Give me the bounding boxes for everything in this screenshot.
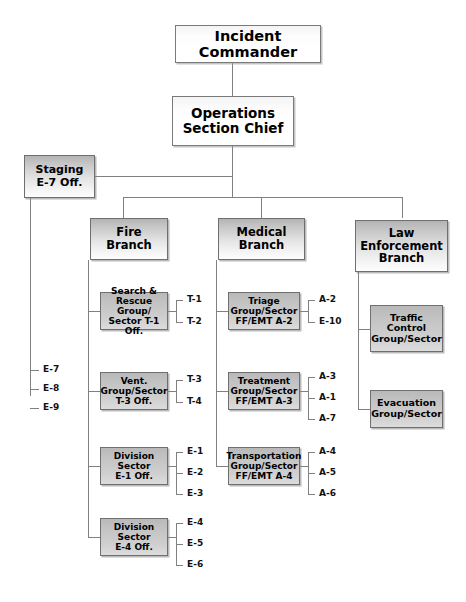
bracket-arm-t1 (176, 300, 183, 301)
node-transportation-line3: FF/EMT A-4 (225, 471, 304, 481)
node-vent-line3: T-3 Off. (99, 396, 170, 406)
bracket-spine-vent (176, 380, 177, 402)
connector-law-spine (358, 272, 359, 409)
resource-label-triage-0: A-2 (319, 294, 336, 304)
resource-label-treatment-0: A-3 (319, 371, 336, 381)
node-fire-branch-text: Fire Branch (104, 226, 153, 252)
stub-staging-e7 (30, 370, 39, 371)
node-operations-section-chief-line2: Section Chief (181, 121, 286, 136)
bracket-arm-a7 (308, 419, 315, 420)
node-division-sector-e4[interactable]: Division Sector E-4 Off. (100, 518, 168, 556)
bracket-arm-t4 (176, 402, 183, 403)
node-treatment-line3: FF/EMT A-3 (229, 396, 300, 406)
resource-label-division-e1-0: E-1 (187, 446, 203, 456)
node-law-enforcement-branch-line1: Law (358, 227, 445, 240)
connector-fire-spine (88, 260, 89, 538)
node-transportation-group[interactable]: Transportation Group/Sector FF/EMT A-4 (228, 447, 300, 485)
resource-label-transportation-2: A-6 (319, 488, 336, 498)
node-transportation-line2: Group/Sector (225, 461, 304, 471)
bracket-stem-treatment (300, 391, 308, 392)
node-search-rescue-text: Search & Rescue Group/ Sector T-1 Off. (101, 286, 167, 336)
node-law-enforcement-branch-text: Law Enforcement Branch (358, 227, 445, 266)
node-treatment-line2: Group/Sector (229, 386, 300, 396)
bracket-arm-a3 (308, 377, 315, 378)
bracket-stem-division-e1 (168, 466, 176, 467)
node-division-e4-line1: Division (112, 522, 157, 532)
node-division-e4-line2: Sector (112, 532, 157, 542)
stub-medical-triage (216, 311, 228, 312)
node-search-rescue-line1: Search & (101, 286, 167, 296)
node-traffic-control-group[interactable]: Traffic Control Group/Sector (370, 305, 443, 352)
connector-staging-to-trunk (95, 176, 233, 177)
bracket-arm-e6 (176, 565, 183, 566)
resource-label-division-e1-1: E-2 (187, 467, 203, 477)
node-medical-branch[interactable]: Medical Branch (218, 218, 305, 260)
bracket-arm-a2 (308, 300, 315, 301)
node-evacuation-group[interactable]: Evacuation Group/Sector (370, 390, 443, 428)
bracket-arm-e2 (176, 473, 183, 474)
node-treatment-text: Treatment Group/Sector FF/EMT A-3 (229, 376, 300, 406)
resource-label-division-e4-1: E-5 (187, 538, 203, 548)
node-fire-branch[interactable]: Fire Branch (90, 218, 168, 260)
node-operations-section-chief[interactable]: Operations Section Chief (172, 96, 294, 146)
bracket-arm-a5 (308, 473, 315, 474)
node-vent-group[interactable]: Vent. Group/Sector T-3 Off. (100, 372, 168, 410)
node-division-e1-text: Division Sector E-1 Off. (112, 451, 157, 481)
node-search-rescue-line2: Rescue Group/ (101, 296, 167, 316)
stub-medical-treatment (216, 391, 228, 392)
resource-label-search-rescue-0: T-1 (187, 294, 202, 304)
node-vent-line2: Group/Sector (99, 386, 170, 396)
resource-label-staging-1: E-8 (43, 383, 59, 393)
connector-drop-law (402, 197, 403, 218)
bracket-arm-t2 (176, 322, 183, 323)
connector-medical-spine (216, 260, 217, 467)
node-operations-section-chief-text: Operations Section Chief (181, 106, 286, 136)
node-division-sector-e1[interactable]: Division Sector E-1 Off. (100, 447, 168, 485)
bracket-spine-triage (308, 300, 309, 322)
node-evacuation-line2: Group/Sector (369, 409, 444, 420)
stub-fire-division-e1 (88, 466, 100, 467)
node-treatment-line1: Treatment (229, 376, 300, 386)
node-triage-line2: Group/Sector (229, 306, 300, 316)
bracket-stem-search-rescue (168, 311, 176, 312)
bracket-arm-e4 (176, 523, 183, 524)
node-staging-line1: Staging (34, 164, 86, 176)
resource-label-triage-1: E-10 (319, 316, 341, 326)
bracket-arm-a1 (308, 398, 315, 399)
resource-label-search-rescue-1: T-2 (187, 316, 202, 326)
resource-label-treatment-1: A-1 (319, 392, 336, 402)
node-staging-text: Staging E-7 Off. (34, 164, 86, 189)
stub-fire-search-rescue (88, 311, 100, 312)
connector-branch-bus (123, 197, 403, 198)
resource-label-transportation-0: A-4 (319, 446, 336, 456)
node-division-e1-line2: Sector (112, 461, 157, 471)
connector-staging-spine (30, 198, 31, 396)
bracket-arm-e1 (176, 452, 183, 453)
stub-fire-division-e4 (88, 537, 100, 538)
node-transportation-text: Transportation Group/Sector FF/EMT A-4 (225, 451, 304, 481)
node-incident-commander[interactable]: Incident Commander (175, 25, 321, 63)
node-staging[interactable]: Staging E-7 Off. (24, 155, 95, 198)
org-chart: Incident Commander Operations Section Ch… (0, 0, 466, 602)
node-division-e4-text: Division Sector E-4 Off. (112, 522, 157, 552)
node-law-enforcement-branch[interactable]: Law Enforcement Branch (355, 220, 448, 272)
bracket-spine-search-rescue (176, 300, 177, 322)
bracket-stem-division-e4 (168, 537, 176, 538)
node-division-e1-line3: E-1 Off. (112, 471, 157, 481)
node-fire-branch-line2: Branch (104, 239, 153, 252)
connector-ic-to-ops (232, 63, 233, 96)
resource-label-treatment-2: A-7 (319, 413, 336, 423)
node-triage-group[interactable]: Triage Group/Sector FF/EMT A-2 (228, 292, 300, 330)
node-vent-text: Vent. Group/Sector T-3 Off. (99, 376, 170, 406)
bracket-stem-triage (300, 311, 308, 312)
bracket-arm-a4 (308, 452, 315, 453)
node-transportation-line1: Transportation (225, 451, 304, 461)
connector-ops-down (232, 146, 233, 197)
resource-label-staging-2: E-9 (43, 402, 59, 412)
resource-label-vent-1: T-4 (187, 396, 202, 406)
node-search-rescue-group[interactable]: Search & Rescue Group/ Sector T-1 Off. (100, 292, 168, 330)
node-triage-line1: Triage (229, 296, 300, 306)
node-law-enforcement-branch-line3: Branch (358, 252, 445, 265)
node-triage-line3: FF/EMT A-2 (229, 316, 300, 326)
node-treatment-group[interactable]: Treatment Group/Sector FF/EMT A-3 (228, 372, 300, 410)
